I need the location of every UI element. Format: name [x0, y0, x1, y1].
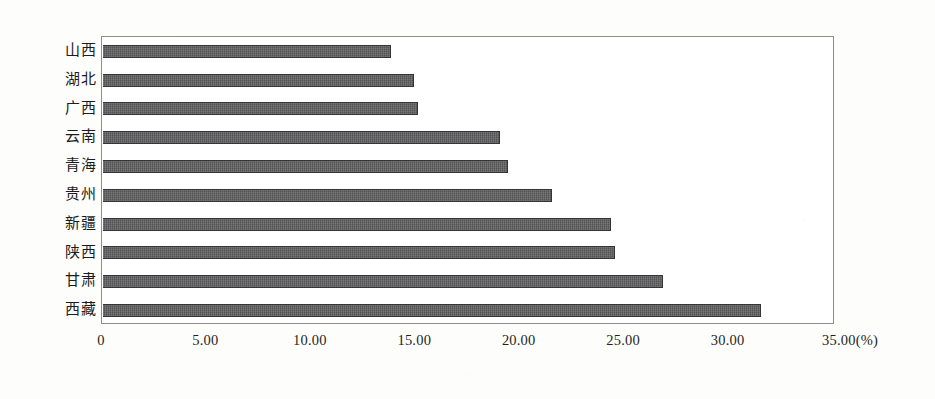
x-axis-tick-labels: 05.0010.0015.0020.0025.0030.0035.00(%)	[0, 331, 935, 355]
bar-row	[102, 123, 833, 152]
bar-row	[102, 239, 833, 268]
x-tick-20.00: 20.00	[502, 331, 536, 349]
bar-row	[102, 267, 833, 296]
bar-row	[102, 210, 833, 239]
bar-贵州[interactable]	[103, 189, 552, 202]
category-label-新疆: 新疆	[0, 216, 96, 231]
bar-山西[interactable]	[103, 45, 391, 58]
category-label-甘肃: 甘肃	[0, 273, 96, 288]
category-label-云南: 云南	[0, 129, 96, 144]
x-tick-10.00: 10.00	[293, 331, 327, 349]
x-tick-5.00: 5.00	[192, 331, 218, 349]
bar-湖北[interactable]	[103, 74, 414, 87]
bar-row	[102, 296, 833, 325]
category-axis: 山西湖北广西云南青海贵州新疆陕西甘肃西藏	[0, 36, 96, 324]
x-tick-35.00: 35.00(%)	[822, 331, 878, 349]
category-label-西藏: 西藏	[0, 302, 96, 317]
bar-云南[interactable]	[103, 131, 500, 144]
bar-西藏[interactable]	[103, 304, 761, 317]
category-label-贵州: 贵州	[0, 187, 96, 202]
x-tick-0: 0	[97, 331, 104, 349]
x-tick-30.00: 30.00	[711, 331, 745, 349]
bar-chart-figure: 山西湖北广西云南青海贵州新疆陕西甘肃西藏 05.0010.0015.0020.0…	[0, 0, 935, 399]
bar-row	[102, 66, 833, 95]
bar-新疆[interactable]	[103, 218, 611, 231]
bar-陕西[interactable]	[103, 246, 615, 259]
category-label-湖北: 湖北	[0, 72, 96, 87]
category-label-广西: 广西	[0, 101, 96, 116]
category-label-山西: 山西	[0, 43, 96, 58]
x-tick-15.00: 15.00	[397, 331, 431, 349]
bar-row	[102, 37, 833, 66]
bar-甘肃[interactable]	[103, 275, 663, 288]
bar-广西[interactable]	[103, 102, 418, 115]
category-label-青海: 青海	[0, 158, 96, 173]
category-label-陕西: 陕西	[0, 245, 96, 260]
bar-row	[102, 181, 833, 210]
plot-area	[101, 36, 834, 324]
bar-row	[102, 95, 833, 124]
bar-row	[102, 152, 833, 181]
bar-青海[interactable]	[103, 160, 508, 173]
x-tick-25.00: 25.00	[606, 331, 640, 349]
